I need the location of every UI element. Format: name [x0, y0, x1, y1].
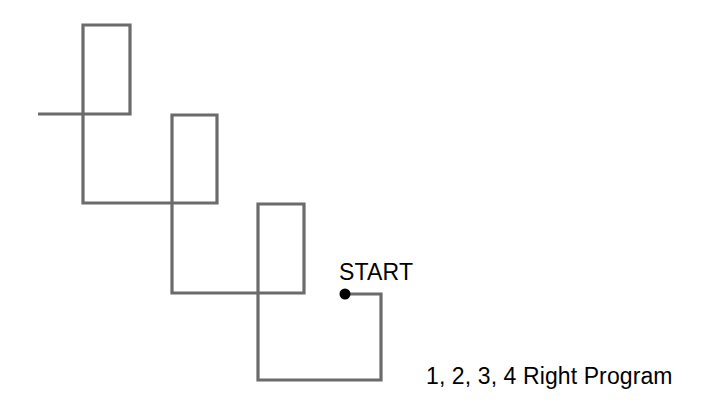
turtle-graphics-figure: START 1, 2, 3, 4 Right Program: [0, 0, 712, 413]
program-path-drawing: [0, 0, 712, 413]
staircase-polyline: [38, 25, 381, 380]
program-caption: 1, 2, 3, 4 Right Program: [426, 365, 673, 388]
start-point-marker: [340, 289, 351, 300]
start-label: START: [339, 261, 413, 284]
